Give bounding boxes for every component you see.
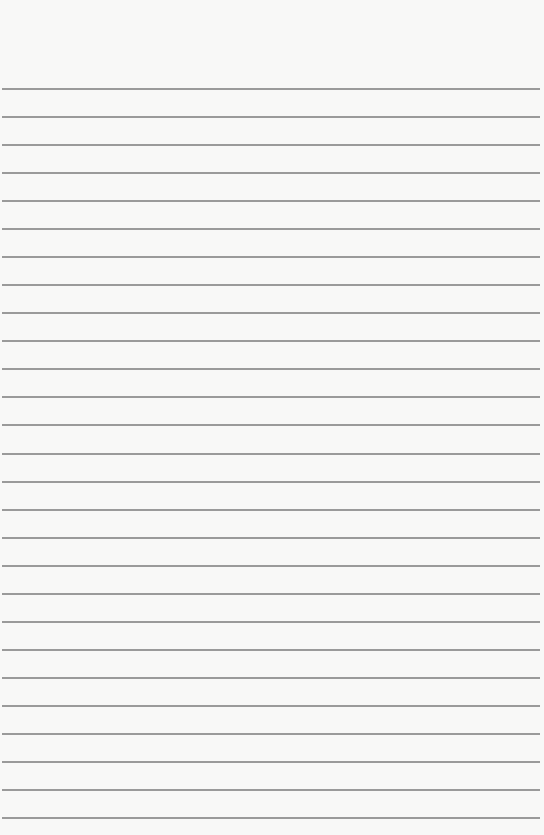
ruled-line [2, 537, 540, 539]
ruled-line [2, 116, 540, 118]
ruled-line [2, 396, 540, 398]
ruled-line [2, 172, 540, 174]
lined-paper-sheet [0, 0, 544, 835]
ruled-line [2, 228, 540, 230]
ruled-line [2, 789, 540, 791]
ruled-line [2, 733, 540, 735]
ruled-line [2, 424, 540, 426]
ruled-line [2, 705, 540, 707]
ruled-line [2, 312, 540, 314]
ruled-line [2, 340, 540, 342]
ruled-line [2, 509, 540, 511]
ruled-line [2, 368, 540, 370]
ruled-line [2, 761, 540, 763]
ruled-line [2, 453, 540, 455]
ruled-line [2, 621, 540, 623]
ruled-line [2, 677, 540, 679]
ruled-line [2, 817, 540, 819]
ruled-line [2, 200, 540, 202]
ruled-line [2, 88, 540, 90]
ruled-line [2, 649, 540, 651]
ruled-line [2, 481, 540, 483]
ruled-line [2, 284, 540, 286]
ruled-line [2, 593, 540, 595]
ruled-line [2, 565, 540, 567]
ruled-line [2, 256, 540, 258]
ruled-line [2, 144, 540, 146]
